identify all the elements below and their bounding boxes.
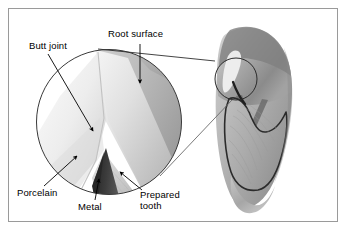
label-metal: Metal	[78, 202, 102, 213]
label-prepared-tooth-line1: Prepared	[140, 189, 180, 200]
dental-illustration-figure: Butt joint Root surface Porcelain Metal …	[0, 0, 348, 232]
label-butt-joint: Butt joint	[29, 41, 67, 52]
label-porcelain: Porcelain	[17, 188, 58, 199]
label-root-surface: Root surface	[108, 29, 163, 40]
tooth-cross-section-group	[216, 27, 293, 213]
magnified-detail-group	[34, 47, 200, 205]
label-prepared-tooth-line2: tooth	[140, 200, 162, 211]
label-prepared-tooth: Preparedtooth	[140, 190, 180, 211]
